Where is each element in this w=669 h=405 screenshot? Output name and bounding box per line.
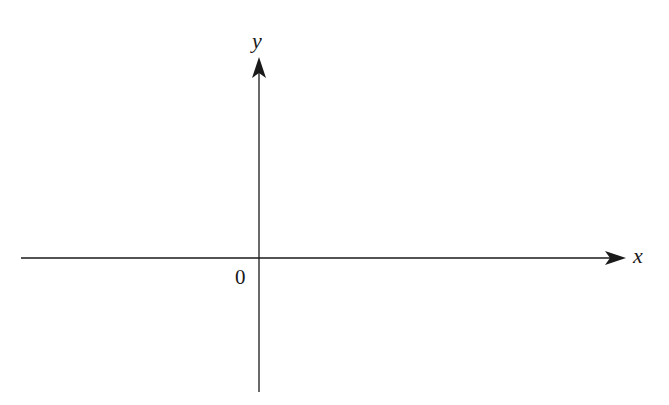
origin-label: 0 [235, 267, 246, 288]
y-axis-label: y [252, 30, 262, 52]
x-axis-label: x [633, 245, 643, 267]
coordinate-axes [0, 0, 669, 405]
